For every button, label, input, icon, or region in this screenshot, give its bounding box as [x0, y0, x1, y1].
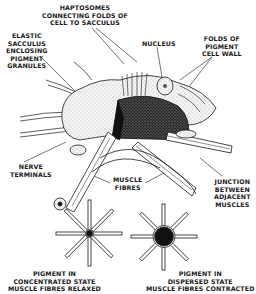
label-muscle-fibres: MUSCLE FIBRES — [113, 176, 142, 191]
muscle-fibres — [54, 130, 232, 212]
label-concentrated-state: PIGMENT IN CONCENTRATED STATE MUSCLE FIB… — [8, 270, 101, 293]
label-junction: JUNCTION BETWEEN ADJACENT MUSCLES — [214, 178, 251, 208]
label-dispersed-state: PIGMENT IN DISPERSED STATE MUSCLE FIBRES… — [146, 270, 254, 293]
label-elastic-sacculus: ELASTIC SACCULUS ENCLOSING PIGMENT GRANU… — [6, 32, 48, 70]
dispersed-state-diagram — [131, 204, 197, 270]
concentrated-state-diagram — [56, 200, 122, 266]
label-nerve-terminals: NERVE TERMINALS — [10, 163, 52, 178]
label-nucleus: NUCLEUS — [142, 40, 176, 48]
label-folds: FOLDS OF PIGMENT CELL WALL — [202, 35, 242, 58]
label-haptosomes: HAPTOSOMES CONNECTING FOLDS OF CELL TO S… — [42, 4, 128, 27]
